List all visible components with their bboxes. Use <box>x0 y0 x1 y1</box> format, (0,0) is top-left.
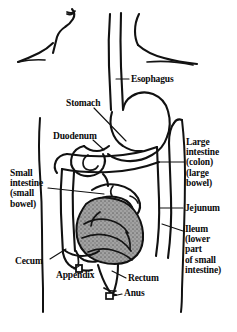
neck-and-shoulder-outline <box>18 9 197 65</box>
digestive-system-diagram: Esophagus Stomach Duodenum Large intesti… <box>0 0 237 332</box>
label-large-intestine: Large intestine (colon) (large bowel) <box>186 137 219 188</box>
ileum-shaded-mass <box>76 198 143 264</box>
duodenum-loop <box>71 146 108 186</box>
leader-stomach <box>94 108 126 141</box>
label-duodenum: Duodenum <box>53 131 97 141</box>
label-stomach: Stomach <box>66 98 100 108</box>
label-cecum: Cecum <box>15 256 43 266</box>
label-anus: Anus <box>124 288 145 298</box>
leader-rectum <box>112 271 126 278</box>
label-rectum: Rectum <box>128 273 159 283</box>
rectum-and-anus <box>98 264 118 299</box>
label-jejunum: Jejunum <box>185 203 220 213</box>
label-ileum: Ileum (lower part of small intestine) <box>185 224 221 275</box>
leader-ileum <box>162 224 183 231</box>
esophagus-tube <box>109 13 123 110</box>
leader-duodenum <box>93 140 104 150</box>
label-appendix: Appendix <box>56 270 94 280</box>
label-small-intestine: Small intestine (small bowel) <box>10 168 43 209</box>
label-esophagus: Esophagus <box>131 74 173 84</box>
